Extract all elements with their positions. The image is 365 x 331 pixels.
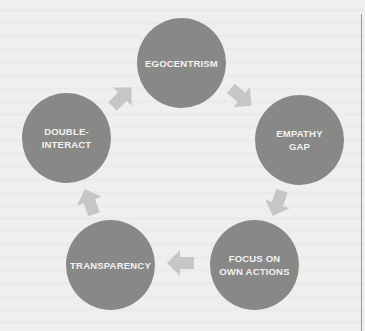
node-empathy-gap: EMPATHY GAP xyxy=(255,95,344,185)
node-double-interact: DOUBLE- INTERACT xyxy=(22,93,111,183)
node-label: EGOCENTRISM xyxy=(145,57,218,70)
arrow-transparency-to-double-interact xyxy=(73,184,107,218)
arrow-focus-to-transparency xyxy=(167,250,194,276)
arrow-empathy-gap-to-focus xyxy=(261,186,295,220)
arrow-egocentrism-to-empathy-gap xyxy=(222,78,259,115)
node-transparency: TRANSPARENCY xyxy=(66,220,155,310)
node-egocentrism: EGOCENTRISM xyxy=(137,18,226,108)
arrow-double-interact-to-egocentrism xyxy=(103,78,140,115)
node-label: TRANSPARENCY xyxy=(70,259,151,272)
node-label: DOUBLE- INTERACT xyxy=(42,125,92,151)
node-label: EMPATHY GAP xyxy=(276,127,322,153)
node-label: FOCUS ON OWN ACTIONS xyxy=(219,252,289,278)
node-focus-on-own-actions: FOCUS ON OWN ACTIONS xyxy=(210,220,299,310)
